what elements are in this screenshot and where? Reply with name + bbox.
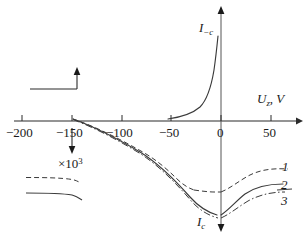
figure-canvas: −200 −150 −100 −50 0 50 Uz, V I−c Ic ×10… (0, 0, 308, 242)
valley-current-subscript: c (201, 221, 205, 231)
valley-current-label: Ic (197, 215, 205, 231)
up-arrow-head (74, 67, 81, 75)
curve-2-descending (73, 119, 217, 215)
curve-2-right (221, 184, 283, 215)
scale-multiplier-label: ×103 (58, 157, 83, 170)
curve-label-2: 2 (281, 178, 288, 191)
y-axis-arrowhead-top (218, 6, 225, 14)
x-tick-label-minus150: −150 (56, 126, 83, 139)
fragment-solid-left (26, 193, 82, 200)
down-arrow-head (69, 146, 76, 154)
multiplier-base: ×10 (58, 156, 78, 171)
curve-positive-branch (168, 36, 218, 119)
x-axis-unit: V (276, 91, 284, 106)
peak-current-label: I−c (199, 21, 213, 37)
x-axis-ticks (22, 115, 271, 121)
x-tick-label-minus200: −200 (6, 126, 33, 139)
x-axis-symbol: U (257, 91, 266, 106)
y-axis-arrowhead-bottom (218, 224, 225, 232)
curve-1-near-axis (194, 190, 221, 192)
multiplier-exponent: 3 (78, 156, 82, 166)
x-axis-label: Uz, V (257, 92, 284, 108)
curve-label-1: 1 (282, 160, 289, 173)
x-tick-label-minus50: −50 (159, 126, 179, 139)
up-arrow-marker (30, 67, 80, 89)
x-axis-comma: , (270, 91, 273, 106)
chart-plot-area (0, 0, 308, 242)
peak-current-subscript: −c (203, 27, 213, 37)
x-tick-label-minus100: −100 (106, 126, 133, 139)
fragment-dashed-left (26, 178, 79, 183)
x-axis-arrowhead (296, 118, 303, 125)
curve-3-right (221, 192, 285, 218)
x-tick-label-zero: 0 (217, 126, 224, 139)
x-tick-label-50: 50 (263, 126, 276, 139)
curve-label-3: 3 (281, 194, 288, 207)
